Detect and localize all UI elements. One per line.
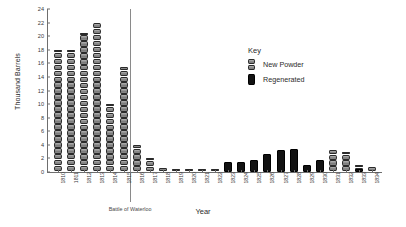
bar-segment: [67, 88, 75, 93]
x-tick-mark: [228, 170, 229, 173]
y-tick-mark: [47, 131, 50, 132]
bar-segment: [54, 71, 62, 76]
bar-segment: [67, 160, 75, 165]
bar-segment: [67, 59, 75, 64]
y-tick-mark: [47, 158, 50, 159]
bar-segment: [80, 154, 88, 159]
bar-segment: [67, 53, 75, 58]
x-tick-mark: [124, 170, 125, 173]
x-tick-mark: [215, 170, 216, 173]
legend-label: Regenerated: [263, 75, 305, 84]
x-tick-mark: [333, 170, 334, 173]
bar-segment: [93, 77, 101, 82]
x-tick-label: 1833: [361, 172, 367, 184]
x-tick-label: 1817: [152, 172, 158, 184]
bar-segment: [54, 160, 62, 165]
bar-segment: [80, 107, 88, 112]
x-tick-label: 1828: [296, 172, 302, 184]
x-tick-label: 1823: [230, 172, 236, 184]
bar-segment: [67, 142, 75, 147]
bar-segment: [54, 106, 62, 111]
bar: [106, 104, 114, 172]
bar-segment: [80, 119, 88, 124]
x-tick-label: 1830: [322, 172, 328, 184]
bar-segment: [106, 119, 114, 124]
bar-segment: [67, 82, 75, 87]
bar-segment: [133, 160, 141, 165]
x-tick-label: 1831: [335, 172, 341, 184]
bar-segment: [120, 94, 128, 99]
x-tick-label: 1826: [269, 172, 275, 184]
bar-segment: [54, 94, 62, 99]
bar-segment: [67, 50, 75, 52]
bar-segment: [54, 59, 62, 64]
bar-segment: [93, 23, 101, 28]
bar-segment: [106, 113, 114, 118]
bar-segment: [80, 142, 88, 147]
y-tick-mark: [47, 76, 50, 77]
x-tick-label: 1834: [374, 172, 380, 184]
bar-segment: [80, 65, 88, 70]
bar: [133, 145, 141, 172]
y-tick-label: 18: [38, 47, 47, 53]
bar-segment: [329, 150, 337, 154]
bar-segment: [67, 136, 75, 141]
bar-segment: [67, 154, 75, 159]
bar-segment: [120, 106, 128, 111]
bar-segment: [342, 155, 350, 160]
bar-segment: [93, 88, 101, 93]
x-tick-label: 1820: [191, 172, 197, 184]
bar-segment: [54, 142, 62, 147]
x-tick-label: 1825: [256, 172, 262, 184]
y-tick-label: 12: [38, 88, 47, 94]
bar-segment: [120, 67, 128, 70]
x-tick-mark: [241, 170, 242, 173]
bar-segment: [120, 118, 128, 123]
x-tick-label: 1811: [73, 172, 79, 183]
bar-segment: [80, 77, 88, 82]
bar-segment: [120, 112, 128, 117]
bar: [54, 50, 62, 172]
legend-item[interactable]: New Powder: [248, 59, 305, 70]
bar-segment: [120, 148, 128, 153]
x-tick-mark: [58, 170, 59, 173]
bar-segment: [106, 154, 114, 159]
x-tick-mark: [176, 170, 177, 173]
bar-segment: [342, 160, 350, 165]
bar-segment: [120, 124, 128, 129]
bar-segment: [93, 112, 101, 117]
bar-segment: [146, 161, 154, 166]
bar-segment: [54, 88, 62, 93]
bar-segment: [93, 148, 101, 153]
bar-segment: [93, 94, 101, 99]
bar-segment: [106, 136, 114, 141]
y-tick-label: 16: [38, 60, 47, 66]
bar-segment: [80, 125, 88, 130]
bar-segment: [120, 82, 128, 87]
x-tick-mark: [84, 170, 85, 173]
x-tick-label: 1822: [217, 172, 223, 184]
bar-segment: [93, 29, 101, 34]
bar-segment: [80, 71, 88, 76]
bar-segment: [93, 124, 101, 129]
x-tick-mark: [150, 170, 151, 173]
bar-segment: [54, 100, 62, 105]
bar-segment: [106, 130, 114, 135]
bar-segment: [80, 136, 88, 141]
bar-segment: [106, 104, 114, 106]
bar-segment: [67, 124, 75, 129]
bar-segment: [67, 65, 75, 70]
bar-segment: [93, 82, 101, 87]
x-tick-mark: [346, 170, 347, 173]
chart-container: Thousand Barrels 024681012141618202224 B…: [0, 0, 406, 227]
bar-segment: [120, 130, 128, 135]
bar-segment: [93, 65, 101, 70]
bar-segment: [80, 130, 88, 135]
bar-segment: [54, 65, 62, 70]
legend-item[interactable]: Regenerated: [248, 74, 305, 85]
legend-marker-icon: [248, 74, 255, 85]
bar-segment: [120, 77, 128, 82]
x-tick-label: 1827: [283, 172, 289, 184]
x-tick-label: 1812: [86, 172, 92, 184]
x-tick-label: 1818: [165, 172, 171, 184]
